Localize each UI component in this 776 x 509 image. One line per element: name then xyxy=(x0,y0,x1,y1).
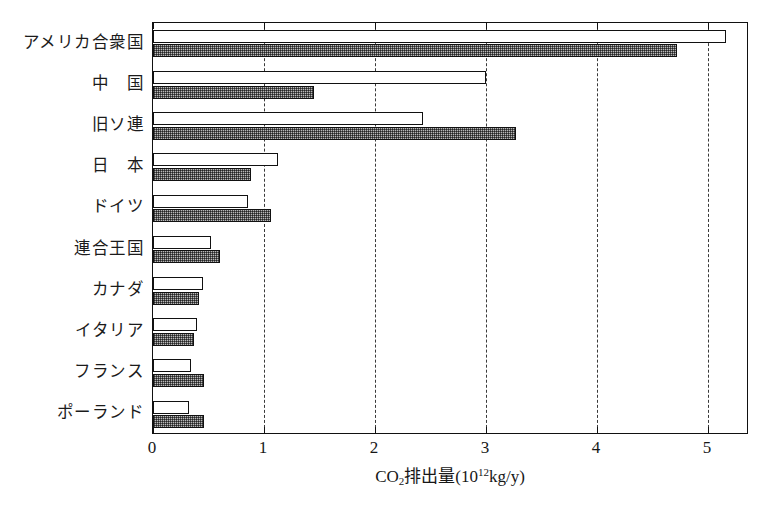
axis-title-superscript: 12 xyxy=(478,466,489,478)
bar-open-8 xyxy=(153,359,191,372)
bar-hatched-9 xyxy=(153,415,204,428)
category-label-8: フランス xyxy=(74,363,144,381)
bar-open-2 xyxy=(153,112,423,125)
bar-open-0 xyxy=(153,30,726,43)
bar-hatched-8 xyxy=(153,374,204,387)
x-tick-1 xyxy=(264,427,265,433)
category-label-3: 日 本 xyxy=(92,157,145,175)
x-tick-label-5: 5 xyxy=(687,438,727,458)
x-tick-top-0 xyxy=(153,23,154,29)
category-label-0: アメリカ合衆国 xyxy=(23,34,145,52)
bar-open-3 xyxy=(153,153,278,166)
bar-open-4 xyxy=(153,195,248,208)
x-tick-top-5 xyxy=(708,23,709,29)
x-tick-top-2 xyxy=(375,23,376,29)
axis-title-prefix: CO xyxy=(375,467,399,486)
category-label-1: 中 国 xyxy=(92,75,145,93)
bar-hatched-5 xyxy=(153,250,220,263)
bar-hatched-6 xyxy=(153,292,199,305)
bar-open-5 xyxy=(153,236,211,249)
bar-hatched-1 xyxy=(153,86,314,99)
plot-area xyxy=(152,22,748,434)
x-tick-top-1 xyxy=(264,23,265,29)
category-label-7: イタリア xyxy=(75,322,144,340)
gridline-x-1 xyxy=(264,23,265,433)
x-axis-title: CO2排出量(1012kg/y) xyxy=(152,462,748,492)
category-label-5: 連合王国 xyxy=(74,240,144,258)
bar-hatched-0 xyxy=(153,44,677,57)
x-tick-label-2: 2 xyxy=(354,438,394,458)
gridline-x-5 xyxy=(708,23,709,433)
bar-hatched-2 xyxy=(153,127,516,140)
axis-title-suffix: kg/y) xyxy=(489,467,525,486)
gridline-x-3 xyxy=(486,23,487,433)
bar-hatched-4 xyxy=(153,209,271,222)
category-label-2: 旧ソ連 xyxy=(92,116,145,134)
x-tick-label-1: 1 xyxy=(243,438,283,458)
bar-hatched-7 xyxy=(153,333,194,346)
category-label-6: カナダ xyxy=(92,281,145,299)
gridline-x-4 xyxy=(597,23,598,433)
bar-hatched-3 xyxy=(153,168,251,181)
bar-open-6 xyxy=(153,277,203,290)
x-tick-label-4: 4 xyxy=(576,438,616,458)
category-label-4: ドイツ xyxy=(92,198,145,216)
x-tick-top-3 xyxy=(486,23,487,29)
gridline-x-2 xyxy=(375,23,376,433)
category-label-9: ポーランド xyxy=(57,404,145,422)
x-tick-label-3: 3 xyxy=(465,438,505,458)
x-tick-top-4 xyxy=(597,23,598,29)
co2-emissions-bar-chart: アメリカ合衆国中 国旧ソ連日 本ドイツ連合王国カナダイタリアフランスポーランド … xyxy=(0,0,776,509)
axis-title-middle: 排出量(10 xyxy=(404,467,478,486)
x-tick-label-0: 0 xyxy=(132,438,172,458)
bar-open-7 xyxy=(153,318,197,331)
x-tick-5 xyxy=(708,427,709,433)
x-tick-4 xyxy=(597,427,598,433)
x-tick-3 xyxy=(486,427,487,433)
x-tick-2 xyxy=(375,427,376,433)
bar-open-9 xyxy=(153,401,189,414)
bar-open-1 xyxy=(153,71,486,84)
